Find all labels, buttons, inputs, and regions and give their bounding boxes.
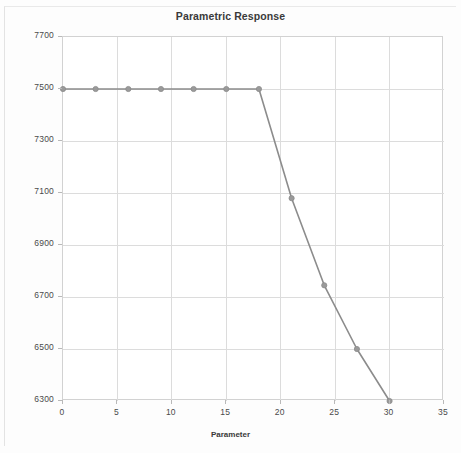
- y-tick-mark: [58, 348, 62, 349]
- series-line-0: [63, 89, 390, 401]
- y-tick-label: 6700: [10, 290, 54, 300]
- x-tick-label: 30: [374, 407, 404, 417]
- x-tick-mark: [62, 400, 63, 404]
- y-tick-mark: [58, 244, 62, 245]
- data-point-marker: [289, 196, 294, 201]
- x-tick-mark: [389, 400, 390, 404]
- y-tick-mark: [58, 192, 62, 193]
- data-point-marker: [191, 86, 196, 91]
- x-tick-label: 25: [319, 407, 349, 417]
- data-point-marker: [322, 283, 327, 288]
- chart-figure: Parametric Response 63006500670069007100…: [0, 0, 461, 453]
- y-tick-label: 7500: [10, 82, 54, 92]
- x-tick-mark: [334, 400, 335, 404]
- x-tick-mark: [171, 400, 172, 404]
- data-point-marker: [256, 86, 261, 91]
- x-tick-label: 0: [47, 407, 77, 417]
- x-tick-mark: [225, 400, 226, 404]
- y-tick-mark: [58, 88, 62, 89]
- y-tick-label: 7100: [10, 186, 54, 196]
- chart-title: Parametric Response: [0, 10, 461, 22]
- data-point-marker: [158, 86, 163, 91]
- y-tick-label: 6900: [10, 238, 54, 248]
- y-tick-label: 7300: [10, 134, 54, 144]
- y-tick-mark: [58, 36, 62, 37]
- y-tick-mark: [58, 140, 62, 141]
- y-tick-label: 6300: [10, 394, 54, 404]
- y-tick-mark: [58, 296, 62, 297]
- x-tick-label: 35: [428, 407, 458, 417]
- x-tick-label: 20: [265, 407, 295, 417]
- data-point-marker: [354, 346, 359, 351]
- data-point-marker: [93, 86, 98, 91]
- data-point-marker: [224, 86, 229, 91]
- x-tick-label: 10: [156, 407, 186, 417]
- y-tick-label: 7700: [10, 30, 54, 40]
- x-tick-label: 15: [210, 407, 240, 417]
- y-tick-label: 6500: [10, 342, 54, 352]
- data-series-objective: [63, 37, 444, 401]
- data-point-marker: [126, 86, 131, 91]
- plot-area: [62, 36, 443, 400]
- x-axis-title: Parameter: [0, 430, 461, 439]
- x-tick-label: 5: [101, 407, 131, 417]
- x-tick-mark: [280, 400, 281, 404]
- x-tick-mark: [116, 400, 117, 404]
- x-tick-mark: [443, 400, 444, 404]
